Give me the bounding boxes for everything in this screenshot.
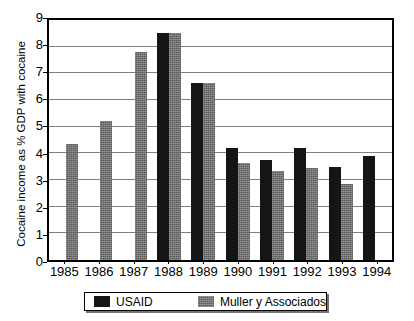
y-axis-tick-mark <box>43 99 47 100</box>
x-axis-tick-text: 1992 <box>293 264 322 279</box>
bar-muller-1985 <box>66 144 78 260</box>
bar-group <box>118 20 152 260</box>
plot-area <box>47 18 394 262</box>
x-axis-tick-mark <box>99 260 100 264</box>
x-axis-tick-mark <box>134 260 135 264</box>
bar-muller-1990 <box>238 163 250 260</box>
x-axis-tick-label: 1987 <box>116 264 151 279</box>
bar-series-container <box>49 20 392 260</box>
bar-usaid-1994 <box>363 156 375 260</box>
x-axis-tick-label: 1986 <box>82 264 117 279</box>
y-axis-tick-mark <box>43 18 47 19</box>
x-axis-tick-mark <box>64 260 65 264</box>
x-axis-tick-text: 1986 <box>85 264 114 279</box>
bar-muller-1991 <box>272 171 284 260</box>
x-axis-tick-label: 1990 <box>221 264 256 279</box>
bar-usaid-1993 <box>329 167 341 260</box>
x-axis-tick-text: 1994 <box>362 264 391 279</box>
x-axis-tick-label: 1994 <box>359 264 394 279</box>
bar-group <box>289 20 323 260</box>
bar-muller-1992 <box>306 168 318 260</box>
y-axis-tick-mark <box>43 235 47 236</box>
bar-usaid-1988 <box>157 33 169 260</box>
y-axis-tick-mark <box>43 154 47 155</box>
y-axis-tick-mark <box>43 72 47 73</box>
y-axis-tick-mark <box>43 208 47 209</box>
y-axis-tick-label: 0 <box>17 257 43 267</box>
legend-swatch-muller-icon <box>198 296 214 307</box>
x-axis-tick-label: 1991 <box>255 264 290 279</box>
x-axis-tick-label: 1992 <box>290 264 325 279</box>
bar-group <box>152 20 186 260</box>
y-axis-tick-label: 8 <box>17 40 43 50</box>
x-axis-tick-label: 1993 <box>325 264 360 279</box>
legend-label-muller: Muller y Associados <box>220 295 326 309</box>
y-axis-tick-label: 3 <box>17 176 43 186</box>
bar-group <box>186 20 220 260</box>
y-axis-tick-label: 5 <box>17 121 43 131</box>
bar-muller-1987 <box>135 52 147 260</box>
legend-label-usaid: USAID <box>116 295 153 309</box>
y-axis-tick-label: 6 <box>17 94 43 104</box>
bar-usaid-1989 <box>191 83 203 260</box>
y-axis-tick-mark <box>43 126 47 127</box>
legend-item-muller: Muller y Associados <box>198 295 326 309</box>
bar-muller-1993 <box>341 184 353 260</box>
bar-group <box>49 20 83 260</box>
bar-usaid-1990 <box>226 148 238 260</box>
legend-swatch-usaid-icon <box>94 296 110 307</box>
x-axis-tick-text: 1991 <box>258 264 287 279</box>
bar-usaid-1991 <box>260 160 272 260</box>
bar-group <box>83 20 117 260</box>
y-axis-tick-label: 2 <box>17 203 43 213</box>
bar-group <box>255 20 289 260</box>
bar-muller-1988 <box>169 33 181 260</box>
bar-group <box>323 20 357 260</box>
x-axis-tick-text: 1988 <box>154 264 183 279</box>
x-axis-tick-text: 1993 <box>328 264 357 279</box>
y-axis-tick-mark <box>43 181 47 182</box>
y-axis-tick-label: 7 <box>17 67 43 77</box>
bar-muller-1989 <box>203 83 215 260</box>
legend-item-usaid: USAID <box>94 295 198 309</box>
x-axis-tick-text: 1987 <box>119 264 148 279</box>
chart-legend: USAID Muller y Associados <box>84 292 327 311</box>
x-axis-tick-text: 1990 <box>223 264 252 279</box>
x-axis-tick-text: 1985 <box>50 264 79 279</box>
x-axis-tick-text: 1989 <box>189 264 218 279</box>
x-axis-tick-mark <box>238 260 239 264</box>
x-axis-tick-labels: 1985198619871988198919901991199219931994 <box>47 264 394 279</box>
x-axis-tick-label: 1985 <box>47 264 82 279</box>
y-axis-tick-label: 9 <box>17 13 43 23</box>
y-axis-tick-label: 4 <box>17 149 43 159</box>
bar-group <box>358 20 392 260</box>
bar-group <box>220 20 254 260</box>
x-axis-tick-label: 1988 <box>151 264 186 279</box>
y-axis-tick-label: 1 <box>17 230 43 240</box>
bar-muller-1986 <box>100 121 112 260</box>
x-axis-tick-label: 1989 <box>186 264 221 279</box>
y-axis-tick-mark <box>43 45 47 46</box>
x-axis-tick-mark <box>273 260 274 264</box>
x-axis-tick-mark <box>203 260 204 264</box>
x-axis-tick-mark <box>168 260 169 264</box>
bar-chart: Cocaine income as % GDP with cocaine 012… <box>0 0 414 321</box>
x-axis-tick-mark <box>377 260 378 264</box>
bar-usaid-1992 <box>294 148 306 260</box>
x-axis-tick-mark <box>342 260 343 264</box>
x-axis-tick-mark <box>307 260 308 264</box>
y-axis-tick-mark <box>43 262 47 263</box>
